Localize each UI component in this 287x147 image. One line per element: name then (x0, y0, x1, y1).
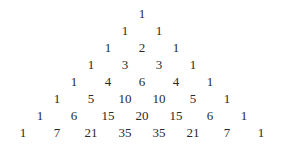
triangle-entry: 1 (173, 41, 180, 55)
triangle-entry: 1 (258, 126, 265, 140)
triangle-entry: 3 (122, 58, 129, 72)
triangle-entry: 5 (190, 92, 197, 106)
triangle-entry: 2 (139, 41, 146, 55)
triangle-entry: 1 (190, 58, 197, 72)
triangle-entry: 10 (153, 92, 166, 106)
triangle-entry: 1 (207, 75, 214, 89)
pascals-triangle: 1111211331146411510105116152015611721353… (0, 0, 287, 147)
triangle-entry: 1 (139, 7, 146, 21)
triangle-entry: 10 (119, 92, 132, 106)
triangle-entry: 6 (139, 75, 146, 89)
triangle-entry: 35 (119, 126, 132, 140)
triangle-entry: 21 (85, 126, 98, 140)
triangle-entry: 4 (105, 75, 112, 89)
triangle-entry: 1 (37, 109, 44, 123)
triangle-entry: 1 (105, 41, 112, 55)
triangle-entry: 3 (156, 58, 163, 72)
triangle-entry: 1 (54, 92, 61, 106)
triangle-entry: 1 (241, 109, 248, 123)
triangle-entry: 7 (54, 126, 61, 140)
triangle-entry: 6 (207, 109, 214, 123)
triangle-entry: 1 (88, 58, 95, 72)
triangle-entry: 1 (71, 75, 78, 89)
triangle-entry: 15 (102, 109, 115, 123)
triangle-entry: 35 (153, 126, 166, 140)
triangle-entry: 6 (71, 109, 78, 123)
triangle-entry: 1 (122, 24, 129, 38)
triangle-entry: 20 (136, 109, 149, 123)
triangle-entry: 4 (173, 75, 180, 89)
triangle-entry: 21 (187, 126, 200, 140)
triangle-entry: 15 (170, 109, 183, 123)
triangle-entry: 1 (156, 24, 163, 38)
triangle-entry: 1 (20, 126, 27, 140)
triangle-entry: 5 (88, 92, 95, 106)
triangle-entry: 1 (224, 92, 231, 106)
triangle-entry: 7 (224, 126, 231, 140)
